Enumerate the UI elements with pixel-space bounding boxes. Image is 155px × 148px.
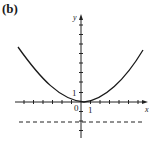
x-axis-arrow-icon (142, 100, 148, 104)
chart-plot: y x 0 1 1 (0, 0, 155, 148)
origin-label: 0 (74, 103, 79, 113)
y-axis (79, 14, 83, 138)
x-tick-label-1: 1 (88, 105, 93, 115)
y-tick-label-1: 1 (72, 88, 77, 98)
y-axis-label: y (72, 13, 77, 22)
y-axis-arrow-icon (79, 14, 83, 20)
x-axis-label: x (144, 105, 149, 114)
